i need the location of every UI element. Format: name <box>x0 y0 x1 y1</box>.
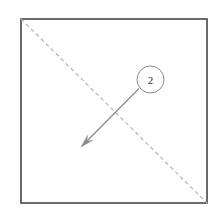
step-number-label: 2 <box>148 74 154 86</box>
paper-square-outline <box>21 19 207 203</box>
diagram-svg: 2 <box>0 0 221 212</box>
origami-diagram-canvas: 2 <box>0 0 221 212</box>
